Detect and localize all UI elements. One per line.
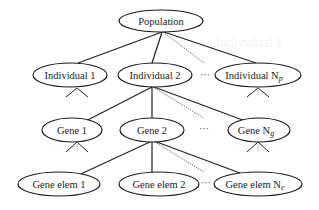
population-hierarchy-diagram: Individual 1	[0, 0, 319, 210]
stub-gene-ng	[247, 142, 269, 152]
node-label-gene-elem-1: Gene elem 1	[32, 179, 85, 190]
node-individual-np: Individual Np	[215, 63, 301, 87]
node-gene-elem-1: Gene elem 1	[18, 172, 100, 196]
node-individual-2: Individual 2	[118, 63, 192, 87]
subscript-g: g	[270, 129, 274, 138]
stub-individual-np	[247, 88, 269, 97]
node-label-population: Population	[138, 16, 184, 27]
ellipsis-gene-elements: ···	[201, 177, 211, 188]
node-population: Population	[119, 10, 203, 32]
node-label-individual-2: Individual 2	[129, 70, 180, 81]
node-label-gene-2: Gene 2	[137, 125, 167, 136]
node-label-gene-elem-2: Gene elem 2	[132, 179, 185, 190]
node-gene-2: Gene 2	[120, 118, 184, 142]
subscript-e: e	[281, 183, 285, 192]
node-gene-ng: Gene Ng	[228, 118, 290, 142]
stub-individual-1	[66, 88, 88, 97]
ellipsis-individuals: ···	[200, 69, 210, 80]
node-gene-1: Gene 1	[42, 118, 102, 142]
node-label-individual-1: Individual 1	[44, 70, 95, 81]
node-gene-elem-ne: Gene elem Ne	[214, 172, 302, 196]
ellipsis-genes: ···	[199, 123, 209, 134]
node-individual-1: Individual 1	[33, 63, 107, 87]
node-label-gene-1: Gene 1	[57, 125, 87, 136]
subscript-p: p	[278, 74, 283, 83]
node-gene-elem-2: Gene elem 2	[119, 172, 199, 196]
stub-gene-1	[66, 142, 88, 152]
background-ghost-text: Individual 1	[215, 35, 283, 50]
